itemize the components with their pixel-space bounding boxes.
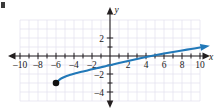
curve-arrowhead: [200, 44, 210, 51]
y-tick-label--2: –2: [94, 70, 105, 80]
x-tick-label--6: –6: [50, 60, 61, 70]
y-axis-top-arrowhead: [107, 7, 114, 15]
x-tick-label-10: 10: [195, 60, 205, 70]
curve-endpoint-dot: [53, 80, 60, 87]
y-tick-label--4: –4: [94, 88, 105, 98]
graph-figure: –10 –8 –6 –4 –2 2 4 6 8 10 2 –2 –4 x y: [0, 0, 218, 109]
corner-mark: [1, 2, 5, 8]
y-axis-label: y: [113, 5, 119, 15]
x-tick-label--8: –8: [32, 60, 43, 70]
y-axis: [107, 7, 114, 108]
x-tick-label-6: 6: [162, 60, 167, 70]
x-axis-left-arrowhead: [8, 53, 16, 60]
x-tick-label--4: –4: [68, 60, 79, 70]
x-tick-label-8: 8: [180, 60, 185, 70]
x-tick-label--10: –10: [12, 60, 28, 70]
y-axis-bottom-arrowhead: [107, 101, 114, 109]
x-axis-label: x: [208, 52, 214, 62]
x-tick-label-4: 4: [144, 60, 149, 70]
coordinate-plane-svg: –10 –8 –6 –4 –2 2 4 6 8 10 2 –2 –4 x y: [0, 0, 218, 109]
y-tick-label-2: 2: [99, 34, 104, 44]
